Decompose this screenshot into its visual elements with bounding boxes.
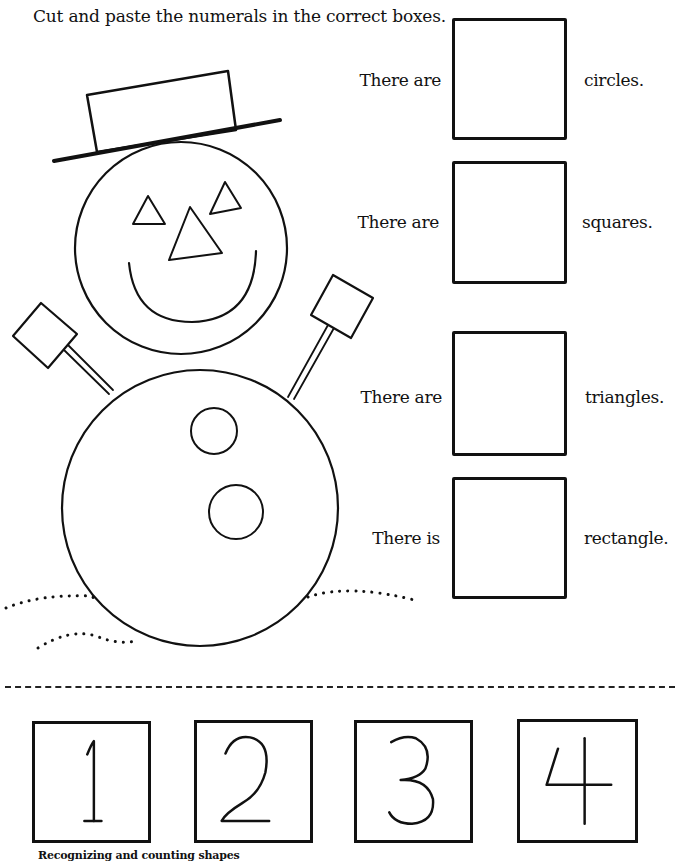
- answer-box-triangles[interactable]: [452, 331, 567, 456]
- nose-triangle-icon: [169, 207, 222, 260]
- question-suffix: squares.: [582, 212, 653, 232]
- snow-line-left-lower-icon: [38, 634, 136, 648]
- numeral-card-1[interactable]: 1: [32, 721, 151, 843]
- question-prefix: There is: [330, 528, 440, 548]
- left-hand-square-icon: [13, 303, 77, 368]
- left-eye-triangle-icon: [133, 196, 165, 224]
- answer-box-squares[interactable]: [452, 161, 567, 284]
- right-hand-square-icon: [311, 275, 373, 338]
- question-suffix: triangles.: [585, 387, 664, 407]
- question-prefix: There are: [332, 387, 442, 407]
- numeral-card-3[interactable]: 3: [354, 720, 473, 843]
- question-suffix: rectangle.: [584, 528, 668, 548]
- mouth-icon: [129, 251, 256, 322]
- worksheet-caption: Recognizing and counting shapes: [38, 849, 239, 862]
- answer-box-rectangle[interactable]: [452, 477, 567, 599]
- answer-box-circles[interactable]: [452, 18, 567, 140]
- numeral-card-2[interactable]: 2: [194, 720, 313, 843]
- question-suffix: circles.: [584, 70, 644, 90]
- cut-line-divider: [5, 686, 675, 688]
- snow-line-right-icon: [308, 591, 418, 601]
- snowman-illustration: [0, 0, 675, 700]
- numeral-4-icon: [520, 722, 635, 840]
- right-eye-triangle-icon: [210, 182, 241, 214]
- numeral-card-4[interactable]: 4: [517, 719, 638, 843]
- numeral-3-icon: [357, 723, 470, 840]
- snow-line-left-icon: [6, 596, 93, 608]
- body-circle-icon: [62, 370, 338, 646]
- question-prefix: There are: [329, 212, 439, 232]
- numeral-1-icon: [35, 724, 148, 840]
- question-prefix: There are: [331, 70, 441, 90]
- numeral-2-icon: [197, 723, 310, 840]
